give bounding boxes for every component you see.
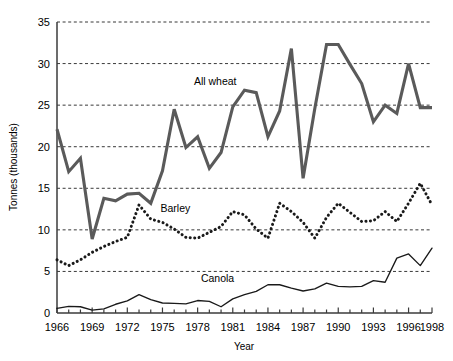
y-tick-label-20: 20 [38,141,50,153]
x-tick-label-1984: 1984 [256,321,280,333]
data-series-group [57,44,432,310]
crop-production-line-chart: 05101520253035 1966196919721975197819811… [0,0,453,361]
x-tick-label-1993: 1993 [361,321,385,333]
x-tick-label-1972: 1972 [115,321,139,333]
chart-container: 05101520253035 1966196919721975197819811… [0,0,453,361]
x-tick-label-1996: 1996 [396,321,420,333]
y-tick-label-35: 35 [38,16,50,28]
y-tick-label-25: 25 [38,99,50,111]
x-tick-label-1981: 1981 [221,321,245,333]
x-tick-label-1998: 1998 [420,321,444,333]
x-tick-label-1987: 1987 [291,321,315,333]
y-tick-label-5: 5 [44,265,50,277]
y-tick-label-10: 10 [38,224,50,236]
series-line-barley [57,183,432,265]
x-axis-title: Year [234,341,255,352]
series-label-canola: Canola [201,272,234,284]
series-line-canola [57,248,432,310]
x-tick-label-1978: 1978 [185,321,209,333]
series-label-all-wheat: All wheat [194,75,237,87]
y-tick-labels-group: 05101520253035 [38,16,50,319]
y-tick-label-30: 30 [38,58,50,70]
gridlines-group [57,22,432,271]
series-line-all-wheat [57,44,432,239]
x-tick-marks-group [57,308,432,314]
y-tick-label-15: 15 [38,182,50,194]
series-inline-labels-group: All wheatBarleyCanola [160,75,236,284]
x-tick-labels-group: 1966196919721975197819811984198719901993… [45,321,444,333]
axes-group [57,22,432,313]
x-tick-label-1966: 1966 [45,321,69,333]
series-label-barley: Barley [160,202,191,214]
y-tick-label-0: 0 [44,307,50,319]
x-tick-label-1990: 1990 [326,321,350,333]
y-axis-title: Tonnes (thousands) [8,123,19,211]
x-tick-label-1969: 1969 [80,321,104,333]
x-tick-label-1975: 1975 [150,321,174,333]
